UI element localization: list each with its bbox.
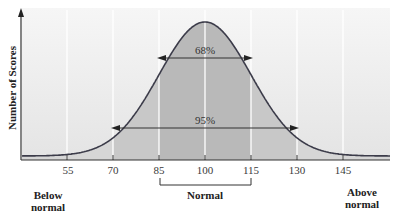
- y-axis-label: Number of Scores: [6, 38, 18, 138]
- tick-label-100: 100: [190, 164, 220, 176]
- tick-label-85: 85: [144, 164, 174, 176]
- label-95-percent: 95%: [185, 114, 225, 126]
- above-normal-line2: normal: [340, 198, 384, 210]
- tick-label-130: 130: [282, 164, 312, 176]
- normal-label: Normal: [180, 189, 230, 201]
- above-normal-label: Above normal: [340, 186, 384, 210]
- tick-label-115: 115: [236, 164, 266, 176]
- normal-bracket: [160, 178, 251, 185]
- tick-label-70: 70: [98, 164, 128, 176]
- above-normal-line1: Above: [340, 186, 384, 198]
- label-68-percent: 68%: [185, 44, 225, 56]
- bell-curve-chart: [0, 0, 393, 215]
- tick-label-145: 145: [328, 164, 358, 176]
- below-normal-line2: normal: [26, 201, 70, 213]
- below-normal-label: Below normal: [26, 189, 70, 213]
- tick-label-55: 55: [53, 164, 83, 176]
- below-normal-line1: Below: [26, 189, 70, 201]
